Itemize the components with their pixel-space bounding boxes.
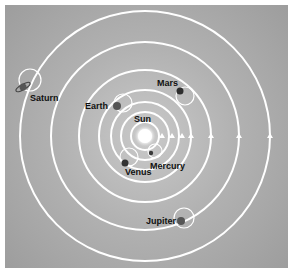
- jupiter-planet: [177, 217, 185, 225]
- mars-planet: [177, 88, 184, 95]
- solar-system-diagram: Sun Mercury Venus Earth Mars Jupiter Sat…: [0, 0, 292, 272]
- venus-planet: [122, 160, 129, 167]
- arrow-icon: [236, 133, 242, 138]
- direction-arrows: [159, 133, 273, 138]
- earth-planet: [113, 102, 121, 110]
- mercury-planet: [149, 151, 153, 155]
- venus-label: Venus: [125, 167, 152, 177]
- saturn-label: Saturn: [30, 93, 59, 103]
- sun-label: Sun: [134, 114, 151, 124]
- mercury-label: Mercury: [150, 161, 185, 171]
- arrow-icon: [208, 133, 214, 138]
- jupiter-label: Jupiter: [146, 216, 177, 226]
- sun-core: [138, 129, 152, 143]
- arrow-icon: [188, 133, 194, 138]
- arrow-icon: [267, 133, 273, 138]
- earth-label: Earth: [85, 101, 108, 111]
- mars-label: Mars: [157, 78, 178, 88]
